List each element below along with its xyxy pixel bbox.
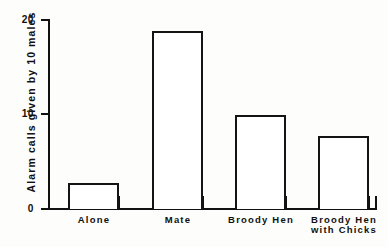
y-axis-title: Alarm calls given by 10 males bbox=[25, 9, 37, 195]
bar-mate bbox=[152, 31, 203, 209]
x-tick-mark-0 bbox=[48, 196, 50, 209]
bar-chart-figure: 20 10 0 Alarm calls given by 10 males Al… bbox=[0, 0, 388, 247]
y-tick-label-0: 0 bbox=[10, 202, 34, 214]
cat-label-broody-hen-with-chicks: Broody Hen with Chicks bbox=[300, 215, 388, 235]
y-tick-mark-20 bbox=[41, 19, 48, 21]
y-tick-mark-10 bbox=[41, 113, 48, 115]
y-tick-mark-0 bbox=[41, 208, 48, 210]
bar-alone bbox=[68, 183, 119, 209]
bar-broody-hen bbox=[235, 115, 286, 209]
cat-label-mate: Mate bbox=[142, 215, 214, 225]
bar-broody-hen-with-chicks bbox=[318, 136, 369, 209]
y-axis-line bbox=[48, 19, 50, 210]
cat-label-broody-hen: Broody Hen bbox=[218, 215, 304, 225]
x-axis-end-cap bbox=[375, 196, 377, 209]
cat-label-alone: Alone bbox=[58, 215, 130, 225]
